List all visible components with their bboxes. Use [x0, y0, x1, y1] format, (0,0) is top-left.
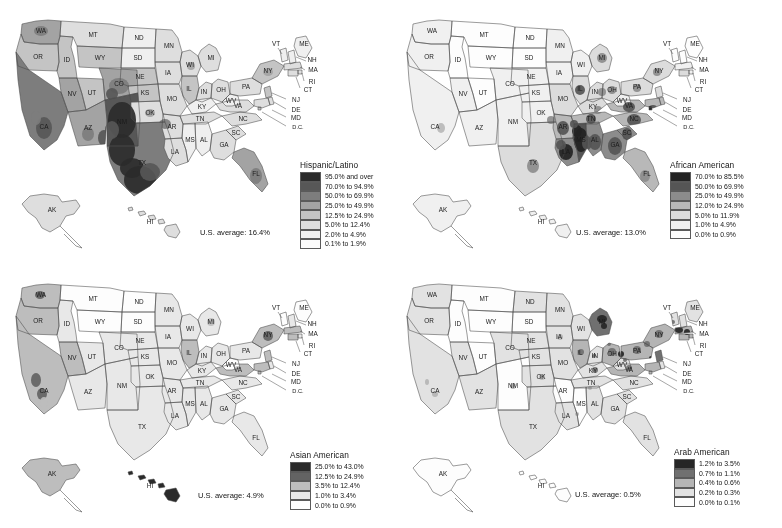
svg-text:D.C.: D.C.: [292, 388, 304, 394]
state-RI: [298, 70, 302, 74]
state-WI: [571, 50, 592, 76]
state-fills: [16, 284, 312, 502]
state-FL: [623, 412, 659, 456]
state-TN: [180, 376, 222, 388]
svg-text:CT: CT: [304, 86, 313, 93]
svg-text:VT: VT: [663, 304, 671, 311]
svg-text:VT: VT: [272, 40, 280, 47]
svg-text:NH: NH: [307, 56, 317, 63]
state-VT: [280, 312, 288, 326]
svg-text:MD: MD: [682, 114, 692, 121]
legend-row: 5.0% to 12.4%: [300, 220, 374, 230]
state-ND: [513, 27, 547, 48]
state-SD: [512, 312, 546, 332]
legend-swatch: [674, 459, 695, 469]
legend-label: 50.0% to 69.9%: [695, 183, 744, 190]
svg-text:VT: VT: [663, 40, 671, 47]
svg-text:RI: RI: [309, 342, 316, 349]
legend-row: 95.0% and over: [300, 172, 374, 182]
legend-swatch: [300, 230, 321, 240]
state-fills: [407, 284, 703, 502]
state-SD: [121, 312, 155, 332]
legend-row: 50.0% to 69.9%: [670, 182, 744, 192]
state-ND: [122, 291, 156, 312]
legend-row: 1.2% to 3.5%: [674, 459, 740, 469]
legend-label: 2.0% to 4.9%: [325, 231, 366, 238]
legend-label: 50.0% to 69.9%: [325, 192, 374, 199]
svg-text:D.C.: D.C.: [683, 388, 695, 394]
state-WY: [468, 310, 513, 332]
state-ND: [122, 27, 156, 48]
legend-swatch: [674, 497, 695, 507]
state-ME: [294, 300, 312, 322]
legend-row: 70.0% to 85.5%: [670, 172, 744, 182]
svg-text:CT: CT: [695, 350, 704, 357]
state-WA: [412, 20, 452, 44]
legend-swatch: [300, 172, 321, 182]
legend-swatch: [300, 191, 321, 201]
legend-label: 70.0% to 94.9%: [325, 183, 374, 190]
four-panel-choropleth-figure: WAORIDMTNDSDNEMNWIMIIAILINOHWYNVUTCOKSMO…: [0, 0, 782, 528]
legend-swatch: [300, 210, 321, 220]
map-panel-asian-american: WAORIDMTNDSDNEMNWIMIIAILINOHWYNVUTCOKSMO…: [0, 264, 391, 528]
svg-text:NJ: NJ: [292, 96, 300, 103]
svg-text:DE: DE: [683, 370, 692, 377]
svg-text:NH: NH: [698, 320, 708, 327]
legend-label: 25.0% to 49.9%: [325, 202, 374, 209]
legend-swatch: [670, 191, 691, 201]
state-ME: [685, 300, 703, 322]
legend-swatch: [290, 472, 311, 482]
svg-text:CT: CT: [304, 350, 313, 357]
legend-label: 1.2% to 3.5%: [699, 460, 740, 467]
state-WA: [412, 284, 452, 308]
legend-swatch: [300, 201, 321, 211]
state-NH: [679, 50, 687, 64]
legend-row: 1.0% to 3.4%: [290, 491, 364, 501]
legend-row: 25.0% to 49.9%: [670, 191, 744, 201]
svg-text:NJ: NJ: [292, 360, 300, 367]
legend-row: 3.5% to 12.4%: [290, 481, 364, 491]
state-SD: [512, 48, 546, 68]
state-ND: [513, 291, 547, 312]
legend-swatch: [300, 182, 321, 192]
legend-swatch: [674, 478, 695, 488]
legend-label: 25.0% to 49.9%: [695, 192, 744, 199]
legend-row: 12.5% to 24.9%: [290, 472, 364, 482]
legend-swatch: [290, 462, 311, 472]
svg-text:MA: MA: [308, 66, 318, 73]
legend-swatch: [300, 239, 321, 249]
state-OK: [131, 365, 165, 387]
legend-arab-american: Arab American 1.2% to 3.5%0.7% to 1.1%0.…: [674, 447, 740, 507]
state-IA: [155, 62, 182, 84]
svg-text:NH: NH: [698, 56, 708, 63]
us-average-label: U.S. average: 13.0%: [576, 228, 646, 237]
state-OK: [522, 365, 556, 387]
state-VT: [671, 48, 679, 62]
legend-label: 0.0% to 0.9%: [695, 231, 736, 238]
legend-swatch: [670, 201, 691, 211]
state-fills: [16, 20, 312, 238]
state-CT: [288, 70, 298, 76]
state-AR: [553, 378, 574, 403]
legend-asian-american: Asian American 25.0% to 43.0%12.5% to 24…: [290, 450, 364, 510]
state-WY: [468, 46, 513, 68]
svg-text:MD: MD: [291, 114, 301, 121]
legend-row: 12.0% to 24.9%: [670, 201, 744, 211]
svg-text:RI: RI: [700, 78, 707, 85]
legend-label: 1.0% to 4.9%: [695, 221, 736, 228]
state-NH: [288, 314, 296, 328]
state-ME: [685, 36, 703, 58]
state-AK: [413, 458, 471, 496]
state-RI: [298, 334, 302, 338]
legend-label: 0.0% to 0.1%: [699, 499, 740, 506]
legend-row: 12.5% to 24.9%: [300, 210, 374, 220]
legend-rows: 70.0% to 85.5%50.0% to 69.9%25.0% to 49.…: [670, 172, 744, 239]
legend-swatch: [670, 210, 691, 220]
legend-title: Arab American: [674, 447, 740, 457]
state-TN: [180, 112, 222, 124]
legend-african-american: African American 70.0% to 85.5%50.0% to …: [670, 160, 744, 239]
legend-label: 1.0% to 3.4%: [315, 492, 356, 499]
state-SD: [121, 48, 155, 68]
svg-text:NJ: NJ: [683, 360, 691, 367]
legend-row: 0.0% to 0.9%: [670, 230, 744, 240]
